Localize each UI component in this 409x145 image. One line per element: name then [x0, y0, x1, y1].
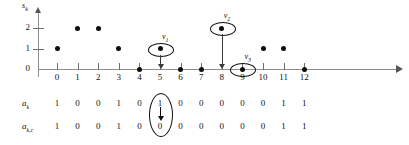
bit-value: 1	[111, 98, 127, 108]
x-tick-mark	[98, 63, 99, 70]
x-tick-label: 12	[296, 72, 312, 82]
x-tick-mark	[119, 63, 120, 70]
bit-value: 1	[296, 98, 312, 108]
signal-annotation-figure: sk 012 0123456789101112 v1v2v3 ak1001010…	[0, 0, 409, 145]
bit-value: 0	[214, 121, 230, 131]
x-tick-label: 5	[152, 72, 168, 82]
x-tick-mark	[78, 63, 79, 70]
bit-value: 0	[90, 121, 106, 131]
row-label-1: ak,c	[22, 121, 33, 133]
x-tick-label: 6	[173, 72, 189, 82]
data-point	[261, 46, 266, 51]
x-tick-label: 4	[131, 72, 147, 82]
y-axis-line	[38, 12, 39, 77]
bit-value: 0	[234, 98, 250, 108]
bit-transition-arrow-head	[158, 116, 164, 121]
bit-value: 1	[111, 121, 127, 131]
y-tick-label: 1	[16, 43, 30, 53]
y-axis-arrow-icon	[35, 7, 41, 13]
y-tick-mark	[33, 28, 44, 29]
annotation-ellipse-v2	[210, 22, 236, 36]
bit-value: 1	[49, 98, 65, 108]
x-tick-label: 0	[49, 72, 65, 82]
annotation-arrow-head-v1	[158, 64, 164, 69]
bit-value: 0	[255, 121, 271, 131]
x-tick-label: 7	[193, 72, 209, 82]
bit-value: 0	[70, 121, 86, 131]
annotation-ellipse-v1	[148, 43, 174, 57]
bit-value: 1	[49, 121, 65, 131]
y-tick-label: 2	[16, 22, 30, 32]
data-point	[302, 67, 307, 72]
x-tick-label: 2	[90, 72, 106, 82]
data-point	[116, 46, 121, 51]
data-point	[96, 26, 101, 31]
x-axis-arrow-icon	[396, 65, 403, 73]
data-point	[199, 67, 204, 72]
bit-value: 1	[276, 121, 292, 131]
annotation-ellipse-v3	[230, 63, 256, 77]
bit-highlight-ellipse	[149, 93, 173, 137]
x-tick-mark	[263, 63, 264, 70]
row-label-subscript: k,c	[27, 127, 34, 133]
x-tick-label: 3	[111, 72, 127, 82]
bit-value: 0	[214, 98, 230, 108]
data-point	[178, 67, 183, 72]
annotation-label-subscript: 2	[227, 16, 230, 22]
bit-value: 0	[131, 121, 147, 131]
x-axis-line	[38, 69, 398, 70]
annotation-label-v1: v1	[162, 32, 169, 43]
y-tick-mark	[33, 49, 44, 50]
x-tick-label: 10	[255, 72, 271, 82]
bit-value: 0	[173, 98, 189, 108]
bit-value: 1	[296, 121, 312, 131]
annotation-label-v3: v3	[244, 52, 251, 63]
x-tick-mark	[57, 63, 58, 70]
annotation-label-v2: v2	[224, 11, 231, 22]
row-label-0: ak	[22, 98, 29, 110]
annotation-arrow-head-v2	[219, 64, 225, 69]
bit-value: 0	[173, 121, 189, 131]
x-tick-label: 1	[70, 72, 86, 82]
row-label-subscript: k	[27, 104, 30, 110]
annotation-label-subscript: 3	[248, 57, 251, 63]
bit-value: 1	[276, 98, 292, 108]
x-tick-mark	[284, 63, 285, 70]
bit-value: 0	[70, 98, 86, 108]
bit-value: 0	[90, 98, 106, 108]
bit-value: 0	[234, 121, 250, 131]
x-tick-label: 8	[214, 72, 230, 82]
x-tick-label: 11	[276, 72, 292, 82]
data-point	[137, 67, 142, 72]
bit-value: 0	[193, 121, 209, 131]
y-axis-label-subscript: k	[25, 6, 28, 12]
y-tick-label: 0	[16, 63, 30, 73]
y-axis-label: sk	[22, 1, 28, 12]
annotation-arrow-line-v2	[222, 34, 223, 65]
data-point	[55, 46, 60, 51]
data-point	[75, 26, 80, 31]
data-point	[281, 46, 286, 51]
bit-value: 0	[255, 98, 271, 108]
bit-value: 0	[193, 98, 209, 108]
bit-value: 0	[131, 98, 147, 108]
annotation-label-subscript: 1	[166, 36, 169, 42]
